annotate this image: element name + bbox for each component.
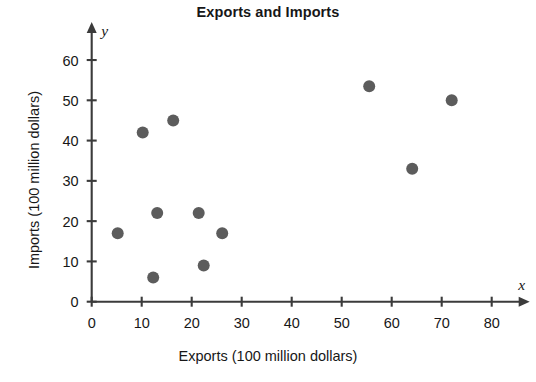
y-axis-arrow-icon (87, 22, 97, 33)
x-tick-label: 10 (134, 315, 150, 331)
data-point (198, 259, 210, 271)
x-tick-label: 40 (284, 315, 300, 331)
data-point (363, 80, 375, 92)
x-tick-label: 50 (334, 315, 350, 331)
data-point (193, 207, 205, 219)
x-tick-label: 80 (484, 315, 500, 331)
y-axis-letter: y (99, 22, 108, 39)
x-tick-label: 30 (234, 315, 250, 331)
scatter-plot-figure: Exports and Imports Imports (100 million… (0, 0, 536, 382)
axis-letters-group: xy (99, 22, 525, 293)
data-points-group (112, 80, 458, 283)
axes-group (87, 22, 530, 307)
y-tick-label: 40 (63, 133, 79, 149)
data-point (151, 207, 163, 219)
data-point (147, 272, 159, 284)
plot-area: 010203040506070800102030405060 xy (0, 0, 536, 382)
x-tick-label: 60 (384, 315, 400, 331)
y-tick-label: 50 (63, 93, 79, 109)
data-point (137, 127, 149, 139)
data-point (406, 163, 418, 175)
x-axis-arrow-icon (519, 297, 530, 307)
y-tick-label: 10 (63, 254, 79, 270)
y-tick-label: 60 (63, 53, 79, 69)
x-tick-label: 20 (184, 315, 200, 331)
y-tick-label: 20 (63, 214, 79, 230)
data-point (446, 94, 458, 106)
ticks-group (87, 60, 492, 307)
x-axis-letter: x (517, 276, 525, 293)
data-point (112, 227, 124, 239)
x-tick-label: 70 (434, 315, 450, 331)
tick-labels-group: 010203040506070800102030405060 (63, 53, 500, 331)
y-tick-label: 30 (63, 173, 79, 189)
data-point (167, 114, 179, 126)
data-point (216, 227, 228, 239)
x-tick-label: 0 (88, 315, 96, 331)
y-tick-label: 0 (71, 294, 79, 310)
